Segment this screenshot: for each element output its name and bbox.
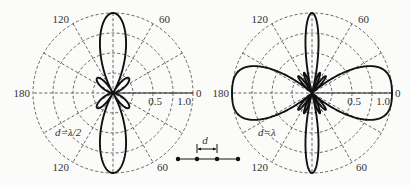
angle-label-60: 60: [358, 13, 370, 25]
figure: 018060120601200.51.0d=λ/2 01806012060120…: [0, 0, 411, 185]
angle-label-300: 60: [356, 161, 368, 173]
angle-label-0: 0: [395, 87, 401, 99]
radial-tick-label: 0.5: [148, 95, 162, 107]
angle-label-0: 0: [196, 87, 202, 99]
polar-plot-left: 018060120601200.51.0d=λ/2: [14, 13, 203, 174]
array-diagram: d: [176, 134, 240, 161]
angle-label-180: 180: [14, 87, 31, 99]
angle-label-240: 120: [53, 161, 70, 173]
angle-label-180: 180: [213, 87, 230, 99]
spacing-annotation: d=λ: [258, 126, 276, 138]
spacing-label: d: [202, 134, 208, 146]
angle-label-240: 120: [252, 161, 269, 173]
radial-tick-label: 1.0: [376, 95, 390, 107]
angle-label-60: 60: [159, 13, 171, 25]
radial-tick-label: 1.0: [177, 95, 191, 107]
array-element: [215, 157, 219, 161]
array-element: [195, 157, 199, 161]
polar-plot-right: 018060120601200.51.0d=λ: [213, 13, 402, 174]
spacing-annotation: d=λ/2: [55, 126, 82, 138]
angle-label-120: 120: [252, 13, 269, 25]
angle-label-120: 120: [53, 13, 70, 25]
angle-label-300: 60: [157, 161, 169, 173]
array-element: [176, 157, 180, 161]
radial-tick-label: 0.5: [347, 95, 361, 107]
array-element: [236, 157, 240, 161]
